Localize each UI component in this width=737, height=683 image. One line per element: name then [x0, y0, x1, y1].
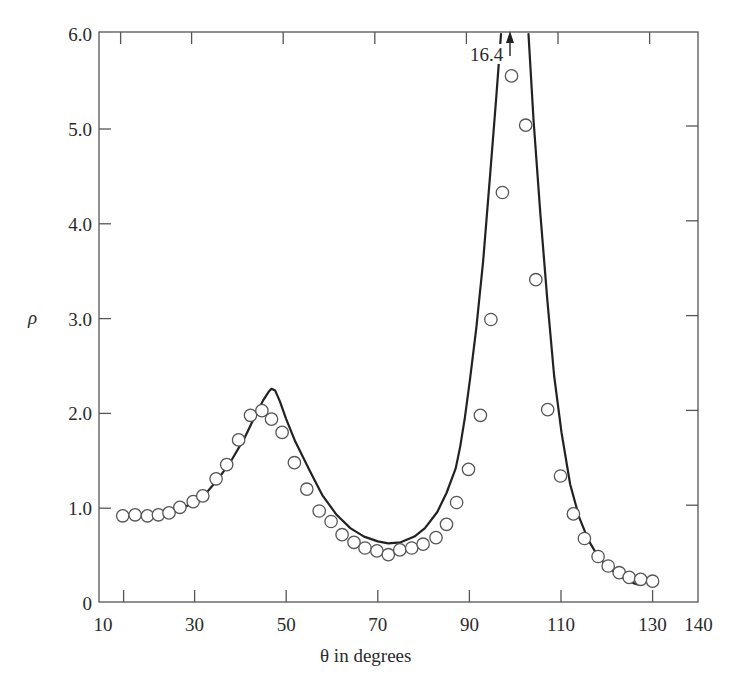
data-point	[496, 186, 508, 198]
data-point	[336, 529, 348, 541]
arrow-up-icon	[506, 31, 514, 43]
x-tick-label: 110	[547, 614, 575, 635]
data-point	[450, 496, 462, 508]
x-tick-label: 70	[368, 614, 387, 635]
data-point	[530, 274, 542, 286]
data-point	[313, 505, 325, 517]
measured-points	[117, 70, 659, 588]
data-point	[542, 403, 554, 415]
y-tick-label: 3.0	[68, 309, 92, 330]
data-point	[117, 510, 129, 522]
data-point	[578, 532, 590, 544]
data-point	[210, 473, 222, 485]
data-point	[265, 413, 277, 425]
data-point	[623, 571, 635, 583]
data-point	[554, 470, 566, 482]
y-tick-label: 4.0	[68, 214, 92, 235]
data-point	[232, 434, 244, 446]
data-point	[406, 542, 418, 554]
data-point	[129, 509, 141, 521]
x-tick-label: 140	[684, 614, 713, 635]
data-point	[371, 545, 383, 557]
data-point	[646, 575, 658, 587]
data-point	[505, 70, 517, 82]
peak-label: 16.4	[470, 44, 504, 65]
data-point	[301, 483, 313, 495]
x-tick-label: 10	[94, 614, 113, 635]
x-tick-label: 130	[638, 614, 667, 635]
plot-frame	[99, 32, 698, 602]
x-axis-title: θ in degrees	[320, 645, 411, 666]
data-point	[417, 538, 429, 550]
data-point	[359, 542, 371, 554]
data-point	[592, 550, 604, 562]
y-tick-label: 6.0	[68, 24, 92, 45]
peak-annotation: 16.4	[469, 31, 514, 65]
y-axis-title: ρ	[27, 307, 37, 328]
data-point	[474, 409, 486, 421]
data-point	[221, 458, 233, 470]
data-point	[174, 501, 186, 513]
data-point	[325, 515, 337, 527]
x-tick-label: 30	[185, 614, 204, 635]
data-point	[567, 508, 579, 520]
data-point	[276, 426, 288, 438]
y-tick-label: 5.0	[68, 119, 92, 140]
axis-ticks	[99, 32, 698, 602]
data-point	[485, 313, 497, 325]
data-point	[520, 119, 532, 131]
data-point	[440, 518, 452, 530]
data-point	[602, 560, 614, 572]
x-tick-label: 50	[277, 614, 296, 635]
data-point	[382, 549, 394, 561]
data-point	[244, 409, 256, 421]
data-point	[394, 544, 406, 556]
data-point	[430, 531, 442, 543]
data-point	[197, 490, 209, 502]
chart: 103050709011013014001.02.03.04.05.06.0 1…	[0, 0, 737, 683]
y-tick-label: 0	[83, 593, 93, 614]
data-point	[288, 457, 300, 469]
x-tick-label: 90	[460, 614, 479, 635]
data-point	[462, 463, 474, 475]
y-tick-label: 1.0	[68, 498, 92, 519]
data-point	[635, 573, 647, 585]
y-tick-label: 2.0	[68, 403, 92, 424]
